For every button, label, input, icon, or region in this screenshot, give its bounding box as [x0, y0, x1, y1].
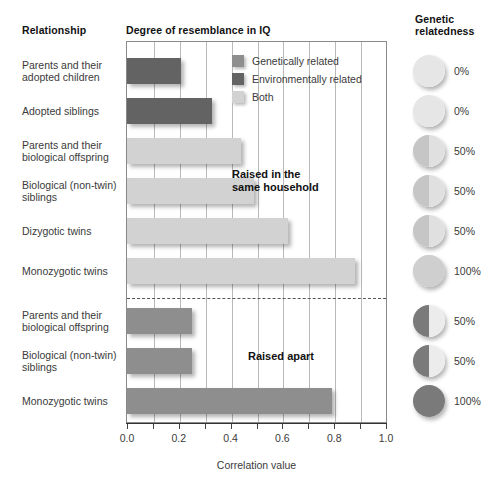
- relatedness-label: 0%: [454, 105, 469, 117]
- relatedness-pie-icon: [413, 385, 445, 417]
- x-axis: 0.00.20.40.60.81.0: [126, 423, 387, 425]
- genetic-relatedness-row: 100%: [413, 255, 481, 287]
- relatedness-pie-icon: [413, 175, 445, 207]
- relatedness-pie-icon: [413, 255, 445, 287]
- genetic-relatedness-row: 50%: [413, 305, 475, 337]
- row-label: Monozygotic twins: [22, 395, 122, 408]
- axis-tick-label: 0.4: [223, 432, 238, 444]
- annotation-raised-in-same-household: Raised in thesame household: [232, 168, 342, 194]
- axis-tick: [231, 424, 232, 429]
- bar: [127, 58, 181, 84]
- genetic-header-line2: relatedness: [415, 25, 474, 37]
- row-label: Parents and their biological offspring: [22, 139, 122, 164]
- axis-tick-label: 1.0: [379, 432, 394, 444]
- relatedness-pie-icon: [413, 95, 445, 127]
- chart-title: Degree of resemblance in IQ: [126, 24, 271, 36]
- legend-label: Genetically related: [252, 55, 339, 67]
- axis-tick: [360, 424, 361, 429]
- axis-tick-label: 0.6: [275, 432, 290, 444]
- chart-legend: Genetically relatedEnvironmentally relat…: [232, 52, 362, 106]
- group-divider: [127, 298, 386, 299]
- relatedness-pie-icon: [413, 135, 445, 167]
- relatedness-pie-icon: [413, 215, 445, 247]
- legend-swatch-icon: [232, 55, 244, 67]
- legend-item: Environmentally related: [232, 70, 362, 88]
- legend-label: Both: [252, 91, 274, 103]
- column-header-relationship: Relationship: [22, 24, 86, 36]
- genetic-relatedness-row: 50%: [413, 135, 475, 167]
- relatedness-label: 50%: [454, 145, 475, 157]
- annotation-line1: Raised in the: [232, 168, 300, 180]
- row-label: Parents and their biological offspring: [22, 309, 122, 334]
- relatedness-label: 50%: [454, 355, 475, 367]
- axis-tick-label: 0.0: [120, 432, 135, 444]
- axis-tick: [334, 424, 335, 429]
- genetic-relatedness-row: 50%: [413, 215, 475, 247]
- legend-item: Genetically related: [232, 52, 362, 70]
- axis-tick-label: 0.8: [327, 432, 342, 444]
- relatedness-label: 50%: [454, 315, 475, 327]
- relatedness-label: 50%: [454, 185, 475, 197]
- row-label: Parents and their adopted children: [22, 59, 122, 84]
- bar: [127, 348, 192, 374]
- genetic-relatedness-row: 50%: [413, 175, 475, 207]
- relatedness-pie-icon: [413, 345, 445, 377]
- annotation-line2: same household: [232, 181, 319, 193]
- column-header-genetic-relatedness: Genetic relatedness: [415, 13, 490, 37]
- legend-item: Both: [232, 88, 362, 106]
- genetic-relatedness-row: 0%: [413, 55, 469, 87]
- legend-label: Environmentally related: [252, 73, 362, 85]
- bar: [127, 218, 288, 244]
- axis-tick: [127, 424, 128, 429]
- row-label: Adopted siblings: [22, 105, 122, 118]
- axis-tick: [205, 424, 206, 429]
- row-label: Dizygotic twins: [22, 225, 122, 238]
- axis-tick: [308, 424, 309, 429]
- relatedness-label: 50%: [454, 225, 475, 237]
- relatedness-label: 0%: [454, 65, 469, 77]
- axis-tick: [257, 424, 258, 429]
- legend-swatch-icon: [232, 91, 244, 103]
- relatedness-label: 100%: [454, 265, 481, 277]
- axis-tick-label: 0.2: [171, 432, 186, 444]
- row-label: Monozygotic twins: [22, 265, 122, 278]
- genetic-relatedness-row: 100%: [413, 385, 481, 417]
- relatedness-pie-icon: [413, 305, 445, 337]
- annotation-raised-apart: Raised apart: [248, 350, 358, 363]
- legend-swatch-icon: [232, 73, 244, 85]
- bar: [127, 258, 355, 284]
- genetic-relatedness-row: 50%: [413, 345, 475, 377]
- relatedness-label: 100%: [454, 395, 481, 407]
- bar: [127, 138, 241, 164]
- x-axis-label: Correlation value: [126, 459, 387, 471]
- iq-resemblance-figure: Relationship Degree of resemblance in IQ…: [0, 0, 497, 488]
- bar: [127, 388, 332, 414]
- axis-tick: [282, 424, 283, 429]
- bar: [127, 98, 212, 124]
- axis-tick: [153, 424, 154, 429]
- row-label: Biological (non-twin) siblings: [22, 349, 122, 374]
- genetic-relatedness-row: 0%: [413, 95, 469, 127]
- relatedness-pie-icon: [413, 55, 445, 87]
- axis-tick: [386, 424, 387, 429]
- axis-tick: [179, 424, 180, 429]
- row-label: Biological (non-twin) siblings: [22, 179, 122, 204]
- genetic-header-line1: Genetic: [415, 13, 454, 25]
- bar: [127, 308, 192, 334]
